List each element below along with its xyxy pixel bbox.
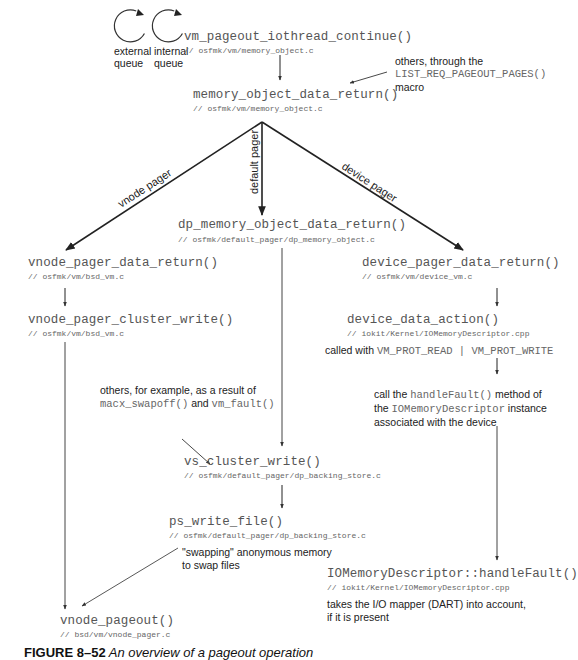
external-queue-line2: queue (114, 57, 151, 69)
note-others-macro: others, through the LIST_REQ_PAGEOUT_PAG… (395, 55, 546, 94)
external-queue-label: external queue (114, 45, 151, 69)
node-dp-return-path: // osfmk/default_pager/dp_memory_object.… (178, 235, 375, 244)
note-called-with-code: VM_PROT_READ | VM_PROT_WRITE (377, 345, 553, 357)
node-handlefault-path: // iokit/Kernel/IOMemoryDescriptor.cpp (327, 583, 509, 592)
node-device-return-fn: device_pager_data_return() (362, 256, 560, 270)
note-called-with: called with VM_PROT_READ | VM_PROT_WRITE (325, 344, 553, 358)
figure-caption-label: FIGURE 8–52 (24, 645, 106, 660)
node-device-action-path: // iokit/Kernel/IOMemoryDescriptor.cpp (347, 329, 529, 338)
node-device-action-fn: device_data_action() (347, 313, 499, 327)
internal-queue-line2: queue (154, 57, 188, 69)
note-others-macro-line1: others, through the (395, 55, 546, 68)
arrow-ps-write-to-vnode-pageout (82, 548, 178, 606)
arrow-others-macro (350, 72, 387, 83)
node-handlefault-fn: IOMemoryDescriptor::handleFault() (327, 567, 578, 581)
node-vnode-return-path: // osfmk/vm/bsd_vm.c (28, 272, 124, 281)
note-hf-t5: associated with the device (374, 416, 547, 429)
node-vs-cluster-fn: vs_cluster_write() (184, 455, 321, 469)
node-dp-return-fn: dp_memory_object_data_return() (178, 218, 406, 232)
note-hf-t2: method of (492, 388, 542, 400)
external-queue-circular-arrow-icon (110, 7, 146, 46)
note-hf-t4: instance (505, 402, 547, 414)
node-device-return-path: // osfmk/vm/device_vm.c (362, 272, 472, 281)
note-others-swap: others, for example, as a result of macx… (100, 384, 275, 411)
node-ps-write-path: // osfmk/default_pager/dp_backing_store.… (169, 531, 366, 540)
node-vs-cluster-path: // osfmk/default_pager/dp_backing_store.… (184, 471, 381, 480)
node-vnode-pageout-fn: vnode_pageout() (60, 614, 174, 628)
node-iothread-fn: vm_pageout_iothread_continue() (184, 30, 412, 44)
note-others-swap-line1: others, for example, as a result of (100, 384, 275, 397)
node-vnode-cluster-fn: vnode_pager_cluster_write() (28, 313, 233, 327)
note-others-macro-code: LIST_REQ_PAGEOUT_PAGES() (395, 68, 546, 81)
note-called-with-text: called with (325, 344, 377, 356)
node-vnode-return-fn: vnode_pager_data_return() (28, 256, 218, 270)
node-mo-return-fn: memory_object_data_return() (193, 88, 398, 102)
node-vnode-pageout-path: // bsd/vm/vnode_pager.c (60, 630, 170, 639)
note-code-vm-fault: vm_fault() (212, 398, 275, 410)
node-vnode-cluster-path: // osfmk/vm/bsd_vm.c (28, 329, 124, 338)
note-others-macro-line3: macro (395, 81, 546, 94)
note-code-macx-swapoff: macx_swapoff() (100, 398, 188, 410)
note-dart-line2: if it is present (327, 611, 526, 624)
note-dart: takes the I/O mapper (DART) into account… (327, 598, 526, 624)
note-swapping-line1: "swapping" anonymous memory (182, 546, 332, 559)
figure-caption: FIGURE 8–52 An overview of a pageout ope… (24, 645, 313, 660)
node-iothread-path: // osfmk/vm/memory_object.c (184, 46, 314, 55)
note-hf-c2: IOMemoryDescriptor (392, 403, 505, 415)
node-ps-write-fn: ps_write_file() (169, 515, 283, 529)
node-mo-return-path: // osfmk/vm/memory_object.c (193, 104, 323, 113)
note-hf-t1: call the (374, 388, 410, 400)
note-hf-c1: handleFault() (410, 389, 492, 401)
note-swapping-line2: to swap files (182, 559, 332, 572)
note-hf-t3: the (374, 402, 392, 414)
figure-caption-text: An overview of a pageout operation (106, 645, 314, 660)
external-queue-line1: external (114, 45, 151, 57)
edge-label-default-pager: default pager (248, 130, 260, 194)
note-and: and (188, 397, 211, 409)
internal-queue-circular-arrow-icon (148, 7, 184, 46)
note-swapping: "swapping" anonymous memory to swap file… (182, 546, 332, 572)
note-handlefault-desc: call the handleFault() method of the IOM… (374, 388, 547, 429)
note-dart-line1: takes the I/O mapper (DART) into account… (327, 598, 526, 611)
